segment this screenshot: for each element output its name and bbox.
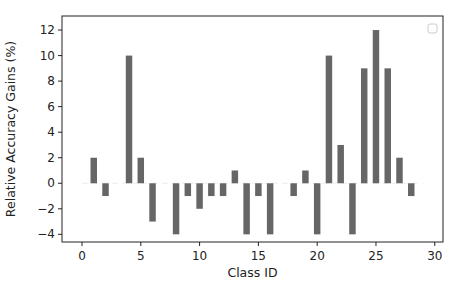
bar — [91, 158, 97, 184]
bar — [196, 183, 202, 209]
bar — [126, 56, 132, 184]
bar — [149, 183, 155, 221]
bar — [314, 183, 320, 234]
bar — [220, 183, 226, 196]
bar — [373, 30, 379, 183]
bar — [208, 183, 214, 196]
bar — [102, 183, 108, 196]
y-axis-label: Relative Accuracy Gains (%) — [3, 41, 18, 217]
bar — [173, 183, 179, 234]
bar — [337, 145, 343, 183]
bar — [349, 183, 355, 234]
y-axis-ticks: −4−2024681012 — [37, 23, 62, 241]
x-tick-label: 15 — [251, 249, 266, 263]
bar — [255, 183, 261, 196]
bar — [185, 183, 191, 196]
bars-group — [91, 30, 415, 234]
y-tick-label: 4 — [47, 125, 55, 139]
x-tick-label: 30 — [427, 249, 442, 263]
bar — [396, 158, 402, 184]
bar — [326, 56, 332, 184]
bar — [138, 158, 144, 184]
bar — [408, 183, 414, 196]
x-tick-label: 0 — [78, 249, 86, 263]
bar — [290, 183, 296, 196]
y-tick-label: 6 — [47, 100, 55, 114]
x-axis-label: Class ID — [227, 265, 277, 280]
y-tick-label: −2 — [37, 202, 55, 216]
x-axis-ticks: 051015202530 — [78, 242, 442, 263]
y-tick-label: 12 — [40, 23, 55, 37]
y-tick-label: 0 — [47, 176, 55, 190]
bar — [267, 183, 273, 234]
bar — [302, 170, 308, 183]
x-tick-label: 20 — [310, 249, 325, 263]
bar — [243, 183, 249, 234]
y-tick-label: 10 — [40, 49, 55, 63]
bar — [232, 170, 238, 183]
y-tick-label: 2 — [47, 151, 55, 165]
x-tick-label: 25 — [368, 249, 383, 263]
legend-box — [428, 24, 437, 33]
y-tick-label: −4 — [37, 227, 55, 241]
x-tick-label: 5 — [137, 249, 145, 263]
bar-chart: 051015202530 −4−2024681012 Class ID Rela… — [0, 0, 464, 291]
bar — [384, 68, 390, 183]
x-tick-label: 10 — [192, 249, 207, 263]
y-tick-label: 8 — [47, 74, 55, 88]
bar — [361, 68, 367, 183]
